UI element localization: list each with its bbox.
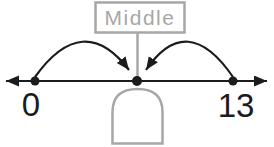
number-line-middle-diagram: Middle 0 13 [0, 0, 274, 147]
middle-point-dot [132, 76, 142, 86]
right-endpoint-dot [229, 77, 238, 86]
left-arc-arrow [35, 42, 129, 77]
hidden-value-cover-shape [113, 89, 163, 144]
left-endpoint-dot [31, 77, 40, 86]
right-endpoint-label: 13 [218, 87, 255, 124]
right-arc-arrow [146, 42, 233, 77]
diagram-canvas: Middle 0 13 [0, 0, 274, 147]
left-endpoint-label: 0 [22, 86, 40, 123]
middle-label: Middle [105, 6, 176, 29]
